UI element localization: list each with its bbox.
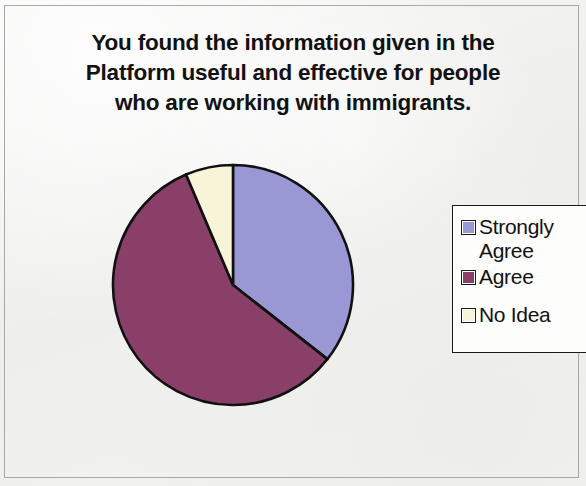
legend-swatch-inner bbox=[462, 221, 475, 234]
legend-swatch-no-idea-icon bbox=[461, 308, 476, 323]
legend-item-strongly-agree[interactable]: Strongly Agree bbox=[461, 215, 586, 263]
legend-item-agree[interactable]: Agree bbox=[461, 265, 586, 289]
legend-item-no-idea[interactable]: No Idea bbox=[461, 303, 586, 327]
chart-title: You found the information given in the P… bbox=[52, 28, 534, 118]
chart-title-line-3: who are working with immigrants. bbox=[52, 88, 534, 118]
pie-chart bbox=[110, 162, 356, 408]
legend-swatch-strongly-agree-icon bbox=[461, 220, 476, 235]
chart-title-line-2: Platform useful and effective for people bbox=[52, 58, 534, 88]
legend-label-no-idea: No Idea bbox=[479, 303, 550, 327]
legend-swatch-inner bbox=[462, 309, 475, 322]
legend-label-agree: Agree bbox=[479, 265, 534, 289]
chart-legend: Strongly Agree Agree No Idea bbox=[452, 205, 586, 353]
chart-title-line-1: You found the information given in the bbox=[52, 28, 534, 58]
chart-page: You found the information given in the P… bbox=[0, 0, 586, 486]
legend-label-strongly-agree: Strongly Agree bbox=[479, 215, 586, 263]
legend-swatch-inner bbox=[462, 271, 475, 284]
pie-chart-svg bbox=[110, 162, 356, 408]
legend-swatch-agree-icon bbox=[461, 270, 476, 285]
